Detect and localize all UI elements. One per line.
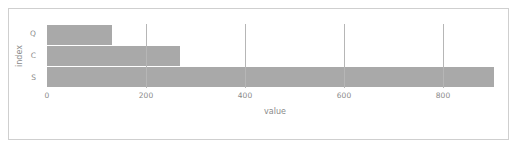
x-tick-label: 400 — [238, 91, 252, 101]
bar-fill — [47, 67, 494, 87]
bar-c — [47, 46, 180, 66]
gridline-400 — [245, 24, 246, 88]
bar-fill — [47, 46, 180, 66]
y-tick-label: Q — [30, 29, 36, 39]
bar-fill — [47, 25, 112, 45]
bar-s — [47, 67, 494, 87]
gridline-200 — [146, 24, 147, 88]
x-tick-label: 0 — [45, 91, 50, 101]
bar-chart-figure: 0 200 400 600 800 Q C S value index — [0, 0, 518, 149]
y-axis-title: index — [14, 45, 25, 67]
gridline-800 — [443, 24, 444, 88]
x-axis-title: value — [47, 106, 503, 117]
plot-area — [47, 24, 503, 88]
y-tick-label: S — [31, 73, 36, 83]
gridline-600 — [344, 24, 345, 88]
x-tick-label: 600 — [337, 91, 351, 101]
x-tick-label: 800 — [436, 91, 450, 101]
x-tick-label: 200 — [139, 91, 153, 101]
bar-q — [47, 25, 112, 45]
y-tick-label: C — [31, 51, 36, 61]
